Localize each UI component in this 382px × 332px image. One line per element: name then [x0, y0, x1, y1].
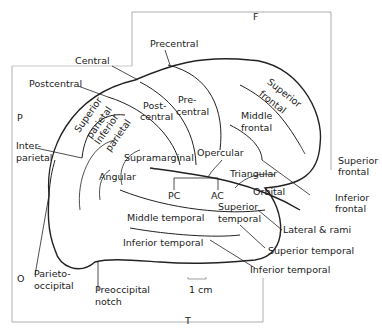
pc-label: PC	[168, 190, 180, 201]
occipital-letter: O	[17, 273, 24, 284]
parieto-occipital-label-2: occipital	[34, 280, 74, 291]
postcentral-gyrus-label-2: central	[140, 111, 173, 122]
superior-temporal-sulcus-label: Superior temporal	[268, 245, 354, 256]
superior-frontal-sulcus-label-2: frontal	[338, 166, 369, 177]
precentral-gyrus-label-1: Pre-	[178, 94, 197, 105]
ac-label: AC	[211, 190, 224, 201]
opercular-gyrus-label: Opercular	[197, 147, 244, 158]
triangular-gyrus-label: Triangular	[230, 168, 277, 179]
angular-gyrus-label: Angular	[99, 171, 136, 182]
middle-temporal-gyrus-label: Middle temporal	[127, 212, 204, 223]
temporal-letter: T	[185, 315, 191, 326]
inferior-frontal-sulcus-label-2: frontal	[335, 203, 366, 214]
middle-frontal-gyrus-label-2: frontal	[241, 122, 272, 133]
superior-temporal-gyrus-label-2: temporal	[218, 213, 261, 224]
orbital-gyrus-label: Orbital	[253, 186, 285, 197]
supramarginal-gyrus-label: Supramarginal	[124, 152, 194, 163]
superior-frontal-sulcus-label-1: Superior	[338, 155, 378, 166]
parieto-occipital-label-1: Parieto-	[34, 268, 71, 279]
preoccipital-label-2: notch	[95, 296, 122, 307]
postcentral-gyrus-label-1: Post-	[143, 100, 166, 111]
inferior-frontal-sulcus-label-1: Inferior	[335, 192, 369, 203]
precentral-sulcus-label: Precentral	[150, 38, 198, 49]
inferior-temporal-sulcus-label: Inferior temporal	[250, 264, 330, 275]
central-sulcus-label: Central	[75, 55, 110, 66]
preoccipital-label-1: Preoccipital	[95, 284, 150, 295]
precentral-gyrus-label-2: central	[176, 106, 209, 117]
interparietal-label-1: Inter-	[16, 140, 41, 151]
scale-bar-label: 1 cm	[189, 284, 213, 295]
lateral-rami-label: Lateral & rami	[283, 224, 351, 235]
frontal-letter: F	[253, 11, 258, 22]
superior-temporal-gyrus-label-1: Superior	[218, 201, 258, 212]
inferior-temporal-gyrus-label: Inferior temporal	[123, 237, 203, 248]
postcentral-sulcus-label: Postcentral	[29, 78, 82, 89]
middle-frontal-gyrus-label-1: Middle	[241, 110, 272, 121]
interparietal-label-2: parietal	[16, 152, 52, 163]
parietal-letter: P	[17, 112, 23, 123]
